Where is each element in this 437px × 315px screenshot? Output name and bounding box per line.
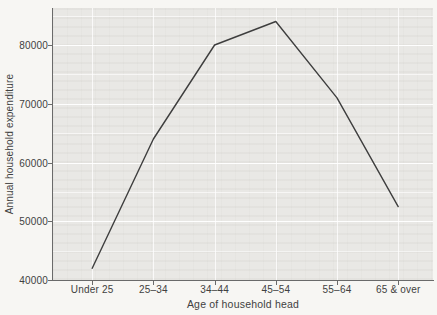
- y-tick-mark-60000: [48, 163, 52, 164]
- y-tick-label-80000: 80000: [6, 40, 48, 51]
- x-axis-title: Age of household head: [187, 298, 299, 310]
- y-tick-label-50000: 50000: [6, 216, 48, 227]
- y-tick-label-40000: 40000: [6, 275, 48, 286]
- x-tick-label-6: 65 & over: [362, 284, 434, 295]
- y-axis-line: [52, 8, 53, 281]
- y-tick-label-70000: 70000: [6, 98, 48, 109]
- scanned-line-chart-figure: Annual household expenditure 40000500006…: [0, 0, 437, 315]
- expenditure-line: [92, 22, 398, 269]
- plot-panel: [53, 8, 433, 280]
- y-axis-title: Annual household expenditure: [4, 74, 15, 215]
- y-tick-mark-50000: [48, 221, 52, 222]
- y-tick-label-60000: 60000: [6, 157, 48, 168]
- y-tick-mark-70000: [48, 104, 52, 105]
- line-series-svg: [53, 8, 433, 280]
- y-tick-mark-40000: [48, 280, 52, 281]
- x-axis-line: [52, 280, 434, 281]
- y-tick-mark-80000: [48, 45, 52, 46]
